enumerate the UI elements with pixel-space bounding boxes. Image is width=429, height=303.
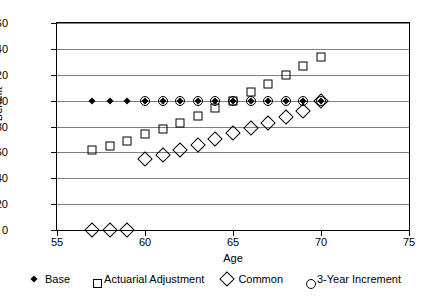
- legend-item-common[interactable]: Common: [221, 273, 283, 285]
- data-point-actuarial-adjustment: [88, 145, 97, 154]
- data-point-actuarial-adjustment: [264, 79, 273, 88]
- gridline: [57, 178, 409, 179]
- data-point-actuarial-adjustment: [141, 130, 150, 139]
- legend-item-base[interactable]: Base: [28, 273, 70, 285]
- y-tick-label: 40: [0, 173, 8, 184]
- gridline: [57, 75, 409, 76]
- x-tick-mark: [57, 231, 58, 236]
- y-tick-label: 20: [0, 199, 8, 210]
- x-tick-label: 55: [51, 236, 63, 248]
- y-tick-label: 100: [0, 95, 8, 106]
- data-point-common: [84, 222, 100, 238]
- x-tick-label: 70: [315, 236, 327, 248]
- benefit-by-age-chart: Benefit Age 020406080100120140160 556065…: [0, 0, 429, 303]
- x-tick-label: 60: [139, 236, 151, 248]
- data-point-common: [278, 110, 294, 126]
- gridline: [57, 23, 409, 24]
- y-tick-label: 80: [0, 121, 8, 132]
- data-point-actuarial-adjustment: [193, 112, 202, 121]
- x-axis-title: Age: [223, 252, 243, 264]
- data-point-actuarial-adjustment: [317, 52, 326, 61]
- x-tick-mark: [409, 231, 410, 236]
- data-point-common: [102, 222, 118, 238]
- data-point-common: [260, 115, 276, 131]
- data-point-actuarial-adjustment: [299, 61, 308, 70]
- legend-label: Base: [45, 273, 70, 285]
- x-tick-label: 65: [227, 236, 239, 248]
- data-point-actuarial-adjustment: [281, 70, 290, 79]
- x-tick-mark: [233, 231, 234, 236]
- data-point-common: [208, 132, 224, 148]
- filled-diamond-icon: [28, 273, 40, 285]
- data-point-base: [106, 97, 113, 104]
- gridline: [57, 49, 409, 50]
- legend-label: Actuarial Adjustment: [104, 273, 204, 285]
- data-point-common: [225, 125, 241, 141]
- square-icon: [87, 273, 99, 285]
- data-point-common: [243, 120, 259, 136]
- legend-label: 3-Year Increment: [317, 273, 401, 285]
- y-tick-label: 120: [0, 69, 8, 80]
- diamond-icon: [221, 273, 233, 285]
- y-tick-label: 0: [2, 225, 8, 236]
- data-point-common: [120, 222, 136, 238]
- chart-legend: BaseActuarial AdjustmentCommon3-Year Inc…: [0, 273, 429, 285]
- data-point-actuarial-adjustment: [123, 136, 132, 145]
- circle-icon: [300, 273, 312, 285]
- data-point-base: [124, 97, 131, 104]
- data-point-actuarial-adjustment: [158, 125, 167, 134]
- data-point-base: [89, 97, 96, 104]
- x-tick-label: 75: [403, 236, 415, 248]
- data-point-common: [172, 142, 188, 158]
- x-tick-mark: [321, 231, 322, 236]
- data-point-common: [137, 151, 153, 167]
- y-tick-label: 60: [0, 147, 8, 158]
- gridline: [57, 204, 409, 205]
- data-point-common: [155, 147, 171, 163]
- data-point-common: [190, 137, 206, 153]
- y-tick-label: 140: [0, 43, 8, 54]
- y-tick-label: 160: [0, 18, 8, 29]
- x-tick-mark: [145, 231, 146, 236]
- plot-area: [56, 22, 410, 231]
- legend-item-actuarial-adjustment[interactable]: Actuarial Adjustment: [87, 273, 204, 285]
- legend-item-3-year-increment[interactable]: 3-Year Increment: [300, 273, 401, 285]
- data-point-actuarial-adjustment: [176, 118, 185, 127]
- legend-label: Common: [238, 273, 283, 285]
- data-point-actuarial-adjustment: [105, 141, 114, 150]
- gridline: [57, 152, 409, 153]
